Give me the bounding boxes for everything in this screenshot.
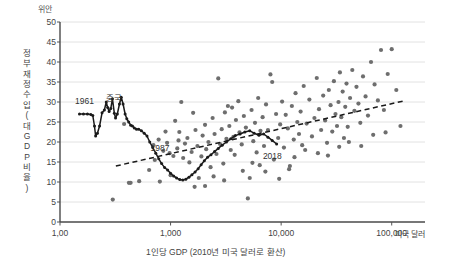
trend-line [116,101,404,166]
annotation-label: 1987 [151,143,170,153]
x-axis-tick-label: 1,00 [52,228,69,238]
annotation-label: 2018 [263,151,282,161]
x-axis-tick-label: 1,000 [160,228,181,238]
x-axis-tick-label: 10,000 [268,228,294,238]
chart-figure: 위안 정부재정수입(대GDP비율) 05101520253035404550 1… [0,0,452,269]
annotation-label: 1961 [75,96,94,106]
x-axis-unit-label: 미국 달러 [395,231,425,239]
x-axis-tick-labels: 1,001,00010,000100,000 [0,228,452,242]
x-axis-title: 1인당 GDP (2010년 미국 달러로 환산) [146,248,285,257]
scatter-points [111,47,403,202]
annotation-label: 중국 [106,91,122,103]
